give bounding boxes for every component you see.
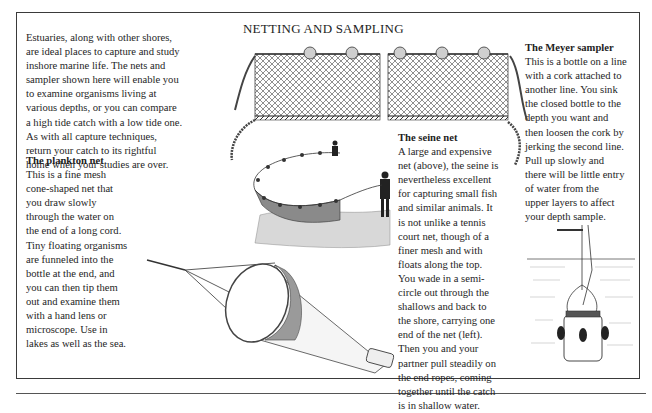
- meyer-line: your depth sample.: [525, 210, 627, 224]
- meyer-line: upper layers to affect: [525, 196, 627, 210]
- plankton-line: out and examine them: [26, 295, 127, 309]
- plankton-line: you draw slowly: [26, 196, 127, 210]
- meyer-sampler-heading: The Meyer sampler: [525, 41, 627, 55]
- intro-line: As with all capture techniques,: [26, 130, 182, 144]
- seine-net-fishing-illustration: [240, 135, 400, 255]
- seine-line: shallows and back to: [398, 300, 498, 314]
- plankton-line: lakes as well as the sea.: [26, 337, 127, 351]
- wader-figure: [332, 141, 338, 157]
- meyer-line: Pull up slowly and: [525, 154, 627, 168]
- plankton-line: Tiny floating organisms: [26, 239, 127, 253]
- plankton-line: are funneled into the: [26, 253, 127, 267]
- intro-line: to examine organisms living at: [26, 87, 182, 101]
- intro-line: Estuaries, along with other shores,: [26, 31, 182, 45]
- intro-line: a high tide catch with a low tide one.: [26, 116, 182, 130]
- seine-line: circle out through the: [398, 286, 498, 300]
- plankton-line: you can then tip them: [26, 281, 127, 295]
- seine-line: is in shallow water.: [398, 399, 498, 413]
- plankton-net-section: The plankton net This is a fine mesh con…: [26, 154, 127, 351]
- intro-line: inshore marine life. The nets and: [26, 59, 182, 73]
- intro-line: sampler shown here will enable you: [26, 73, 182, 87]
- seine-line: the end ropes, coming: [398, 371, 498, 385]
- meyer-line: another line. You sink: [525, 83, 627, 97]
- seine-line: end of the net (left).: [398, 328, 498, 342]
- meyer-sampler-illustration: [525, 225, 640, 370]
- seine-line: the shore, carrying one: [398, 314, 498, 328]
- seine-line: Then you and your: [398, 342, 498, 356]
- intro-paragraph: Estuaries, along with other shores, are …: [26, 31, 182, 172]
- meyer-line: of water from the: [525, 182, 627, 196]
- page-title: NETTING AND SAMPLING: [243, 21, 404, 37]
- meyer-sampler-section: The Meyer sampler This is a bottle on a …: [525, 41, 627, 224]
- seine-line: together until the catch: [398, 385, 498, 399]
- plankton-net-heading: The plankton net: [26, 154, 127, 168]
- meyer-line: the closed bottle to the: [525, 97, 627, 111]
- seine-line: You wade in a semi-: [398, 272, 498, 286]
- meyer-line: there will be little entry: [525, 168, 627, 182]
- plankton-line: cone-shaped net that: [26, 182, 127, 196]
- intro-line: are ideal places to capture and study: [26, 45, 182, 59]
- plankton-line: bottle at the end, and: [26, 267, 127, 281]
- seine-line: partner pull steadily on: [398, 357, 498, 371]
- bottom-rule: [16, 393, 646, 394]
- plankton-line: through the water on: [26, 210, 127, 224]
- meyer-line: then loosen the cork by: [525, 126, 627, 140]
- puller-figure: [380, 172, 390, 218]
- plankton-line: with a hand lens or: [26, 309, 127, 323]
- plankton-line: This is a fine mesh: [26, 168, 127, 182]
- plankton-net-illustration: [145, 255, 400, 370]
- plankton-line: microscope. Use in: [26, 323, 127, 337]
- plankton-line: the end of a long cord.: [26, 224, 127, 238]
- intro-line: various depths, or you can compare: [26, 101, 182, 115]
- meyer-line: This is a bottle on a line: [525, 55, 627, 69]
- meyer-line: depth you want and: [525, 111, 627, 125]
- meyer-line: with a cork attached to: [525, 69, 627, 83]
- meyer-line: jerking the second line.: [525, 140, 627, 154]
